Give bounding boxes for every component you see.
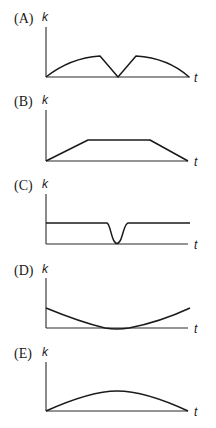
option-e-graph xyxy=(0,0,216,428)
option-e-curve xyxy=(46,391,188,411)
option-e-panel: (E) k t xyxy=(0,0,216,428)
